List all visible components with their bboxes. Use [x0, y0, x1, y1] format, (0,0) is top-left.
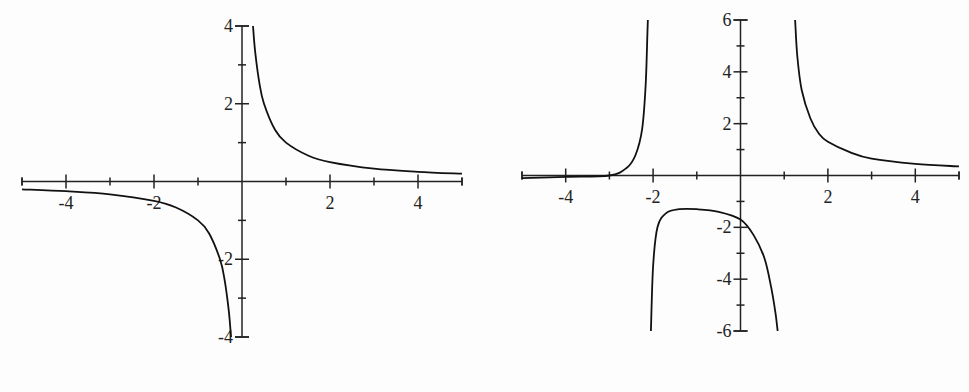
y-tick-label: 6	[723, 10, 732, 30]
y-tick-label: -2	[717, 217, 732, 237]
x-tick-label: 4	[911, 187, 920, 207]
y-tick-label: -6	[717, 321, 732, 341]
x-tick-label: 2	[326, 193, 335, 213]
x-tick-label: -2	[646, 187, 661, 207]
curve-branch-middle	[651, 209, 778, 331]
y-tick-label: 2	[723, 114, 732, 134]
plot-right: -4-224642-2-4-6	[522, 10, 959, 341]
y-tick-label: 4	[224, 16, 233, 36]
y-tick-label: 4	[723, 62, 732, 82]
curve-branch-right	[795, 20, 959, 166]
chart-canvas: -4-22442-2-4 -4-224642-2-4-6	[0, 0, 969, 392]
curve-branch-left	[522, 20, 648, 178]
plot-left: -4-22442-2-4	[22, 16, 462, 347]
curve-branch-right	[253, 26, 462, 174]
x-tick-label: -4	[558, 187, 573, 207]
curve-branch-left	[22, 189, 231, 337]
x-tick-label: 2	[823, 187, 832, 207]
x-tick-label: -4	[59, 193, 74, 213]
y-tick-label: -4	[717, 269, 732, 289]
y-tick-label: 2	[224, 94, 233, 114]
x-tick-label: 4	[414, 193, 423, 213]
